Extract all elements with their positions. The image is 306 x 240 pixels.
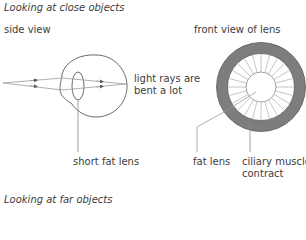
side-view-eye xyxy=(3,55,127,152)
side-lens-label: short fat lens xyxy=(73,156,139,168)
side-lens-ellipse xyxy=(72,72,84,100)
rays-label-line2: bent a lot xyxy=(134,85,182,97)
section-heading-far: Looking at far objects xyxy=(4,194,112,205)
front-lens-label: fat lens xyxy=(193,156,230,168)
front-view-lens xyxy=(197,43,306,153)
rays-label-line1: light rays are xyxy=(134,73,200,85)
front-lens-circle xyxy=(246,72,276,102)
muscles-label-line2: contract xyxy=(242,168,284,180)
muscles-label-line1: ciliary muscles xyxy=(242,156,306,168)
light-rays xyxy=(3,78,126,90)
